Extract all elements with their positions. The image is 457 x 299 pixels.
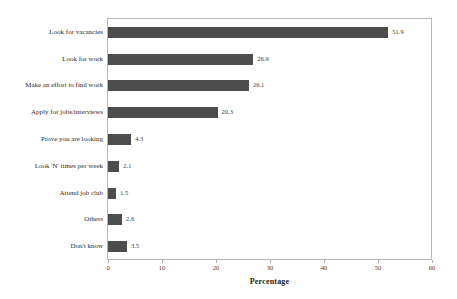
bar-value-label: 26.1 — [253, 79, 264, 90]
bar-row: 26.1 — [108, 80, 432, 91]
x-tick-label: 20 — [213, 264, 220, 271]
category-label: Apply for jobs/interviews — [0, 107, 103, 118]
bars-layer: 51.926.926.120.34.32.11.52.63.5 — [108, 19, 432, 260]
chart-page: Look for vacanciesLook for workMake an e… — [0, 0, 457, 299]
bar — [108, 54, 253, 65]
x-tick-mark — [432, 260, 433, 263]
category-label: Others — [0, 214, 103, 225]
category-label: Look for vacancies — [0, 27, 103, 38]
bar-row: 51.9 — [108, 27, 432, 38]
x-tick-mark — [162, 260, 163, 263]
x-tick-mark — [270, 260, 271, 263]
category-label: Don't know — [0, 241, 103, 252]
category-label: Look for work — [0, 54, 103, 65]
bar-value-label: 2.6 — [126, 213, 134, 224]
bar — [108, 161, 119, 172]
category-label: Look 'N' times per week — [0, 161, 103, 172]
x-tick-label: 50 — [375, 264, 382, 271]
x-tick-mark — [108, 260, 109, 263]
bar-row: 3.5 — [108, 241, 432, 252]
x-tick-mark — [324, 260, 325, 263]
bar-value-label: 26.9 — [257, 53, 268, 64]
bar — [108, 27, 388, 38]
bar — [108, 188, 116, 199]
bar — [108, 214, 122, 225]
x-tick-mark — [378, 260, 379, 263]
x-tick-mark — [216, 260, 217, 263]
category-axis-labels: Look for vacanciesLook for workMake an e… — [0, 19, 103, 260]
bar — [108, 80, 249, 91]
bar — [108, 134, 131, 145]
bar-row: 4.3 — [108, 134, 432, 145]
bar-value-label: 3.5 — [131, 240, 139, 251]
category-label: Attend job club — [0, 188, 103, 199]
bar-value-label: 20.3 — [222, 106, 233, 117]
x-tick-label: 0 — [106, 264, 109, 271]
category-label: Make an effort to find work — [0, 80, 103, 91]
bar-row: 2.6 — [108, 214, 432, 225]
bar — [108, 107, 218, 118]
x-axis-ticks: 0102030405060 — [0, 260, 457, 276]
bar-value-label: 4.3 — [135, 133, 143, 144]
bar-row: 20.3 — [108, 107, 432, 118]
bar-row: 26.9 — [108, 54, 432, 65]
clipped-header-strip — [0, 0, 457, 8]
x-tick-label: 40 — [321, 264, 328, 271]
bar-value-label: 1.5 — [120, 187, 128, 198]
x-axis-title: Percentage — [107, 277, 432, 286]
bar-row: 1.5 — [108, 188, 432, 199]
bar-value-label: 2.1 — [123, 160, 131, 171]
x-tick-label: 30 — [267, 264, 274, 271]
bar — [108, 241, 127, 252]
x-tick-label: 10 — [159, 264, 166, 271]
bar-value-label: 51.9 — [392, 26, 403, 37]
x-tick-label: 60 — [429, 264, 436, 271]
bar-row: 2.1 — [108, 161, 432, 172]
category-label: Prove you are looking — [0, 134, 103, 145]
